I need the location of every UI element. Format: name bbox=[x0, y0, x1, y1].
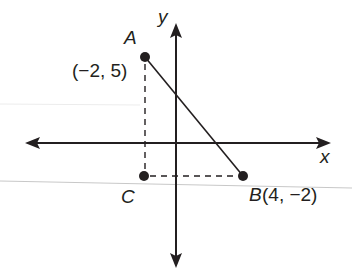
point-B bbox=[238, 171, 248, 181]
scan-artifact-line bbox=[0, 104, 140, 105]
point-B-coords: (4, −2) bbox=[262, 184, 317, 205]
point-A-label: A bbox=[123, 27, 137, 48]
point-A-coords: (−2, 5) bbox=[72, 60, 127, 81]
x-axis bbox=[25, 137, 331, 149]
point-C bbox=[139, 171, 149, 181]
y-axis-label: y bbox=[156, 6, 169, 27]
point-B-label: B bbox=[249, 184, 262, 205]
coordinate-plane-diagram: y x A (−2, 5) C B (4, −2) bbox=[0, 0, 352, 277]
x-axis-label: x bbox=[319, 146, 331, 167]
point-A bbox=[140, 52, 150, 62]
y-axis bbox=[170, 23, 182, 268]
point-C-label: C bbox=[121, 186, 135, 207]
segment-AB bbox=[145, 57, 243, 176]
